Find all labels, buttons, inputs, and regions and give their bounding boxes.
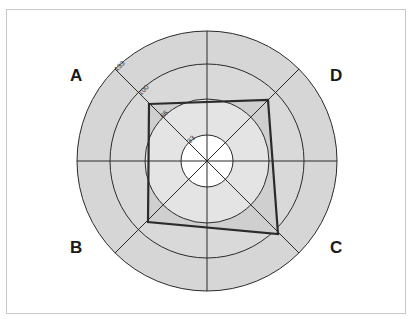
axis-label-c: C [330, 238, 342, 258]
axis-label-a: A [70, 66, 82, 86]
axis-label-b: B [70, 238, 82, 258]
radar-chart: 133 100 66 33 [0, 0, 412, 319]
axis-label-d: D [330, 66, 342, 86]
